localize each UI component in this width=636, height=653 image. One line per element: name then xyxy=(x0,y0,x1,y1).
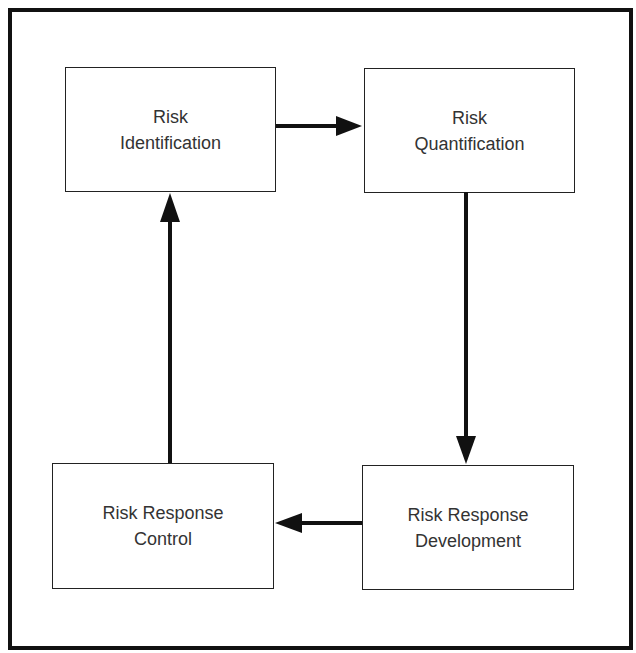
arrow-down-icon xyxy=(456,192,476,464)
arrows-layer xyxy=(0,0,636,653)
arrow-up-icon xyxy=(160,193,180,463)
arrow-left-icon xyxy=(275,513,362,533)
arrow-right-icon xyxy=(276,116,362,136)
